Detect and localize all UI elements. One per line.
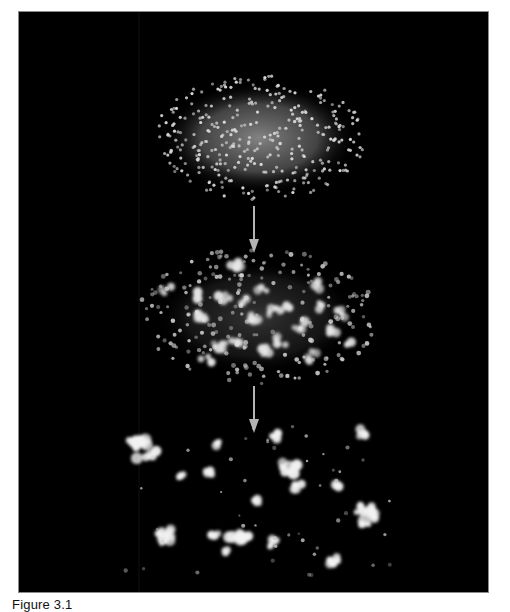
stage-clusters [124,424,392,577]
figure-panel [18,11,489,593]
fragmentation-diagram [19,12,489,593]
stage-fragmenting-cloud [140,248,374,385]
arrow-down-icon [249,206,259,253]
figure-caption: Figure 3.1 [12,597,73,612]
stage-uniform-cloud [158,75,364,201]
arrow-down-icon [249,386,259,433]
